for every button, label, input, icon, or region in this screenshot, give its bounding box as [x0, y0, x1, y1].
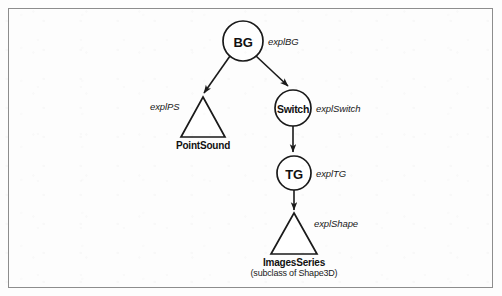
node-label-tg: TG — [285, 166, 303, 181]
node-layer — [181, 21, 317, 254]
node-caption-imagesseries: ImagesSeries — [263, 257, 325, 268]
node-label-switch: Switch — [277, 103, 309, 115]
edge-bg-to-pointsound — [204, 56, 230, 93]
capability-label-imagesseries: explShape — [314, 218, 358, 229]
capability-label-switch: explSwitch — [316, 103, 360, 114]
node-label-bg: BG — [233, 34, 252, 49]
capability-label-bg: explBG — [268, 36, 299, 47]
node-subcaption-imagesseries: (subclass of Shape3D) — [251, 268, 338, 278]
capability-label-pointsound: explPS — [150, 101, 180, 112]
node-pointsound[interactable] — [181, 97, 225, 137]
diagram-figure: BGexplBGexplPSPointSoundSwitchexplSwitch… — [0, 0, 502, 296]
node-caption-pointsound: PointSound — [176, 140, 230, 151]
capability-label-tg: explTG — [316, 168, 346, 179]
edge-bg-to-switch — [256, 56, 288, 86]
node-imagesseries[interactable] — [271, 213, 317, 254]
